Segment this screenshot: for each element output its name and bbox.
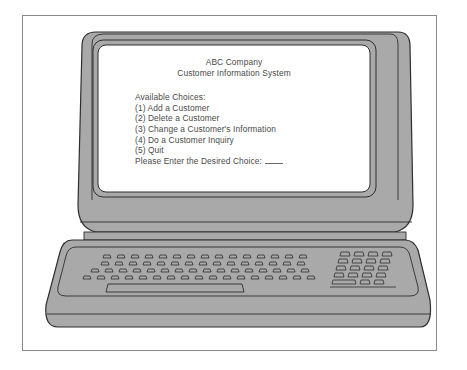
system-name: Customer Information System [100, 68, 368, 79]
menu-item-customer-inquiry[interactable]: (4) Do a Customer Inquiry [135, 135, 368, 146]
menu-item-add-customer[interactable]: (1) Add a Customer [135, 103, 368, 114]
terminal-screen: ABC Company Customer Information System … [100, 47, 368, 190]
choice-prompt: Please Enter the Desired Choice: [135, 156, 262, 166]
screen-header: ABC Company Customer Information System [100, 57, 368, 78]
choice-input[interactable] [265, 156, 283, 164]
choice-prompt-row: Please Enter the Desired Choice: [135, 156, 368, 167]
menu-item-change-customer-info[interactable]: (3) Change a Customer's Information [135, 124, 368, 135]
monitor-neck [84, 232, 406, 240]
menu-item-quit[interactable]: (5) Quit [135, 145, 368, 156]
menu: Available Choices: (1) Add a Customer (2… [135, 92, 368, 166]
menu-heading: Available Choices: [135, 92, 368, 103]
menu-item-delete-customer[interactable]: (2) Delete a Customer [135, 113, 368, 124]
space-bar [106, 284, 244, 292]
keyboard [46, 240, 431, 327]
company-name: ABC Company [100, 57, 368, 68]
